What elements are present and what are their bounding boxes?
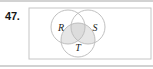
venn-diagram-figure: R S T [28, 6, 152, 61]
problem-number-label: 47. [5, 10, 20, 22]
set-label-r: R [57, 22, 64, 33]
page-bottom-divider [0, 65, 153, 67]
set-label-s: S [93, 22, 98, 33]
exercise-figure-page: 47. [0, 0, 153, 69]
page-top-divider [0, 0, 153, 2]
